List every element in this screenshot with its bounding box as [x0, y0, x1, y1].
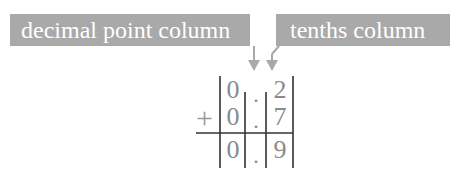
row2-ones-digit: 0	[223, 104, 243, 130]
sum-decimal-point: .	[249, 145, 263, 167]
row1-tenths-digit: 2	[270, 77, 290, 103]
tenths-arrow-icon	[266, 46, 279, 71]
row2-decimal-point: .	[249, 110, 263, 132]
sum-ones-digit: 0	[223, 137, 243, 163]
row1-ones-digit: 0	[223, 77, 243, 103]
sum-tenths-digit: 9	[270, 137, 290, 163]
row1-decimal-point: .	[249, 84, 263, 106]
row2-tenths-digit: 7	[270, 104, 290, 130]
plus-operator: +	[196, 103, 213, 133]
decimal-point-arrow-icon	[248, 46, 260, 71]
